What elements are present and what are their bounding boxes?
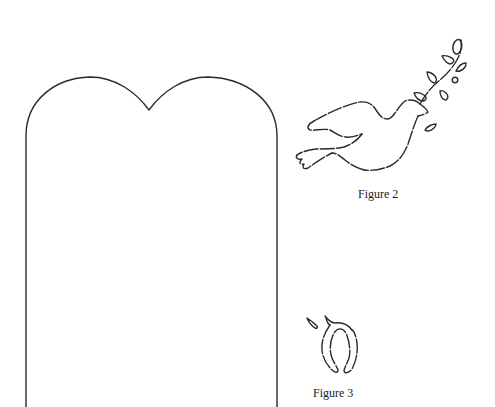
pattern-sheet: Figure 2 Figure 3 [0, 0, 495, 407]
wishbone-icon [0, 0, 495, 407]
figure-3-caption: Figure 3 [313, 386, 353, 401]
